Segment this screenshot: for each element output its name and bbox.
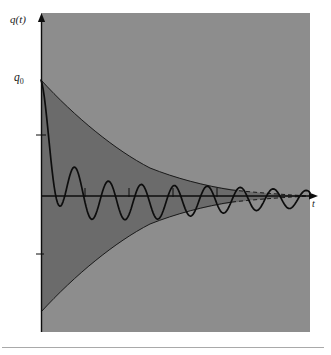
y-axis-label: q(t) bbox=[10, 13, 26, 25]
y-initial-value-label: q0 bbox=[14, 71, 24, 86]
q0-subscript: 0 bbox=[20, 77, 24, 86]
x-axis-label: t bbox=[312, 198, 315, 209]
damped-oscillation-figure bbox=[0, 0, 331, 355]
page-bottom-rule bbox=[2, 347, 324, 348]
